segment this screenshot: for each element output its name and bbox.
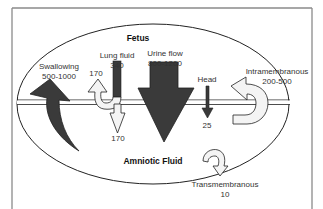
swallowing-value: 500-1000	[42, 72, 76, 81]
lung-fluid-label: Lung fluid	[100, 51, 135, 60]
transmembranous-value: 10	[221, 190, 230, 199]
urine-flow-value: 800-1200	[148, 59, 182, 68]
urine-flow-label: Urine flow	[147, 49, 183, 58]
lung-fluid-up-value: 170	[89, 69, 103, 78]
intramembranous-label: Intramembranous	[246, 67, 309, 76]
amniotic-fluid-title: Amniotic Fluid	[123, 156, 182, 166]
head-label: Head	[197, 75, 216, 84]
lung-fluid-value: 340	[110, 61, 124, 70]
intramembranous-value: 200-500	[262, 77, 292, 86]
swallowing-arrow-icon	[30, 79, 79, 151]
head-value: 25	[203, 121, 212, 130]
urine-flow-arrow-icon	[138, 62, 194, 142]
transmembranous-label: Transmembranous	[192, 180, 259, 189]
lung-fluid-down-value: 170	[111, 134, 125, 143]
amniotic-fluid-diagram: Fetus Amniotic Fluid Swallowing 500-1000…	[0, 0, 323, 209]
swallowing-label: Swallowing	[39, 62, 79, 71]
fetus-title: Fetus	[127, 33, 150, 43]
